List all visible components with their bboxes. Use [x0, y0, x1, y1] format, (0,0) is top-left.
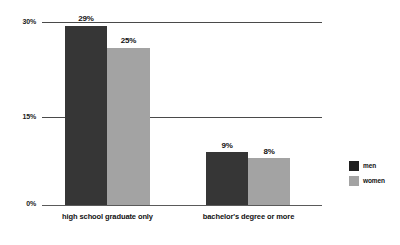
- bar-women-bachelors: [248, 158, 290, 205]
- axis-baseline-0: [42, 205, 322, 206]
- bar-women-high-school: [107, 48, 150, 205]
- legend-swatch-women-icon: [349, 176, 359, 186]
- bar-men-high-school: [65, 26, 107, 205]
- legend-label-men: men: [363, 162, 376, 170]
- y-axis-tick-label-15: 15%: [4, 113, 36, 121]
- legend-item-men: men: [349, 161, 385, 171]
- value-label-women-high-school: 25%: [107, 36, 150, 45]
- legend-label-women: women: [363, 177, 385, 185]
- value-label-men-high-school: 29%: [65, 14, 107, 23]
- chart-legend: men women: [349, 161, 385, 191]
- legend-item-women: women: [349, 176, 385, 186]
- value-label-women-bachelors: 8%: [248, 147, 290, 156]
- bar-men-bachelors: [206, 152, 248, 205]
- value-label-men-bachelors: 9%: [206, 141, 248, 150]
- legend-swatch-men-icon: [349, 161, 359, 171]
- y-axis-tick-label-30: 30%: [4, 18, 36, 26]
- y-axis-tick-label-0: 0%: [4, 200, 36, 208]
- bar-chart: 30% 15% 0% 29% 25% high school graduate …: [0, 0, 400, 245]
- category-label-bachelors: bachelor's degree or more: [181, 212, 316, 221]
- category-label-high-school: high school graduate only: [40, 212, 175, 221]
